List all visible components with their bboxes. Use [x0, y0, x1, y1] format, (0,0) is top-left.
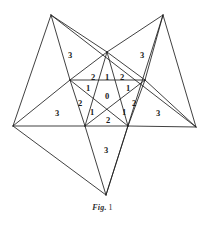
- region-label-mid-apex: 1: [105, 73, 109, 82]
- chord-right-to-topright: [163, 15, 196, 127]
- region-label-outer-bottom: 3: [104, 146, 108, 155]
- region-label-mid-bottom: 2: [106, 116, 110, 125]
- ray-lowerleft-to-bottompoint: [85, 126, 106, 195]
- pentagram-diagram: [0, 0, 205, 205]
- region-label-inner-lower-left: 1: [90, 108, 94, 117]
- pentagram-strokes: [13, 15, 196, 195]
- region-label-outer-upper-right: 3: [140, 51, 144, 60]
- region-label-outer-right: 3: [156, 109, 160, 118]
- ray-upperleft-to-leftpoint: [13, 80, 70, 126]
- chord-bottom-to-left: [13, 126, 106, 195]
- region-label-outer-upper-left: 3: [68, 51, 72, 60]
- figure-caption: Fig.1: [0, 203, 205, 212]
- region-label-outer-left: 3: [55, 109, 59, 118]
- region-label-mid-upper-right: 2: [120, 73, 124, 82]
- figure-caption-prefix: Fig.: [92, 203, 106, 212]
- region-label-mid-left: 2: [78, 99, 82, 108]
- ray-upperleft-to-topleftpoint: [51, 15, 70, 80]
- chord-left-to-topleft: [13, 15, 51, 126]
- figure-caption-number: 1: [109, 203, 113, 212]
- region-label-mid-upper-left: 2: [91, 73, 95, 82]
- region-label-center: 0: [105, 92, 109, 101]
- ray-apex-to-topleftpoint: [51, 15, 107, 52]
- figure-container: 3 3 3 3 3 2 1 2 1 1 0 2 2 1 1 2 Fig.1: [0, 0, 205, 229]
- ray-lowerright-to-rightpoint: [128, 126, 196, 127]
- pentagon-edge-apex-upperleft: [70, 52, 107, 80]
- region-label-mid-right: 2: [132, 99, 136, 108]
- ray-lowerright-to-bottompoint: [106, 126, 128, 195]
- region-label-inner-upper-left: 1: [86, 84, 90, 93]
- region-label-inner-upper-right: 1: [126, 84, 130, 93]
- region-label-inner-lower-right: 1: [122, 108, 126, 117]
- ray-upperright-to-rightpoint: [145, 80, 196, 127]
